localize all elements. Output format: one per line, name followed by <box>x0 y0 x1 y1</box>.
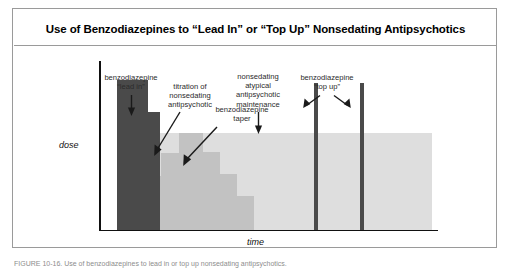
figure-title: Use of Benzodiazepines to “Lead In” or “… <box>13 23 498 35</box>
arrow-taper <box>177 125 219 169</box>
arrow-top-up-right <box>332 94 354 112</box>
series-taper-step-4 <box>237 196 254 230</box>
arrow-maintenance <box>254 112 263 134</box>
x-axis-label: time <box>13 237 498 247</box>
figure-caption: FIGURE 10-16. Use of benzodiazepines to … <box>14 259 495 268</box>
x-axis-line <box>99 230 438 232</box>
arrow-lead-in <box>127 95 136 116</box>
series-leadin-step-4 <box>117 179 131 230</box>
annotation-top-up: benzodiazepine “top up” <box>287 73 367 91</box>
figure-panel: Use of Benzodiazepines to “Lead In” or “… <box>12 8 497 248</box>
arrow-top-up-left <box>300 94 322 112</box>
series-taper-step-3 <box>220 174 237 230</box>
title-divider <box>14 45 497 46</box>
y-axis-label: dose <box>59 140 79 150</box>
figure-container: Use of Benzodiazepines to “Lead In” or “… <box>0 0 509 268</box>
series-topup-spike-2 <box>360 83 364 230</box>
